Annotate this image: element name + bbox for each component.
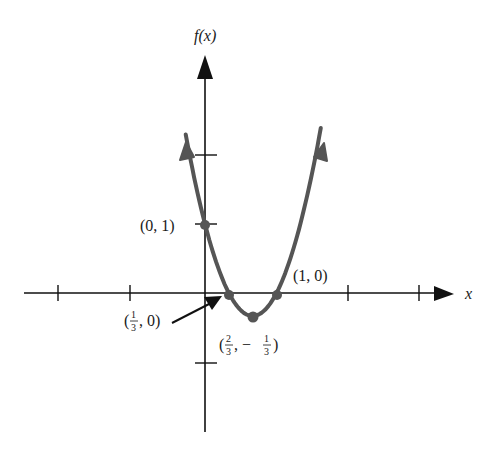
label-point-1-0: (1, 0)	[293, 267, 328, 285]
svg-text:3: 3	[226, 346, 231, 357]
label-point-0-1: (0, 1)	[140, 217, 175, 235]
point-y-intercept	[200, 220, 210, 230]
x-axis-label: x	[464, 285, 472, 302]
curve-left-arrow-icon	[180, 142, 194, 160]
svg-text:, −: , −	[234, 336, 251, 353]
svg-text:1: 1	[131, 309, 136, 320]
point-root-one	[272, 290, 282, 300]
svg-text:, 0): , 0)	[139, 312, 160, 330]
pointer-arrow-icon	[204, 296, 222, 310]
svg-text:2: 2	[226, 333, 231, 344]
svg-text:(: (	[219, 336, 224, 354]
svg-text:1: 1	[264, 333, 269, 344]
svg-text:): )	[273, 336, 278, 354]
x-axis-arrow-icon	[434, 286, 454, 301]
point-root-one-third	[224, 290, 234, 300]
x-axis: x	[24, 285, 472, 302]
function-graph: x f(x) (0, 1) (1, 0) ( 1 3 , 0) ( 2	[0, 0, 495, 454]
y-axis-arrow-icon	[197, 55, 213, 79]
label-point-vertex: ( 2 3 , − 1 3 )	[219, 333, 278, 357]
svg-text:(: (	[124, 312, 129, 330]
root-annotation-arrow	[172, 296, 222, 323]
svg-text:3: 3	[131, 322, 136, 333]
svg-text:3: 3	[264, 346, 269, 357]
label-point-one-third: ( 1 3 , 0)	[124, 309, 160, 333]
point-vertex	[248, 312, 259, 323]
y-axis-label: f(x)	[194, 27, 216, 45]
